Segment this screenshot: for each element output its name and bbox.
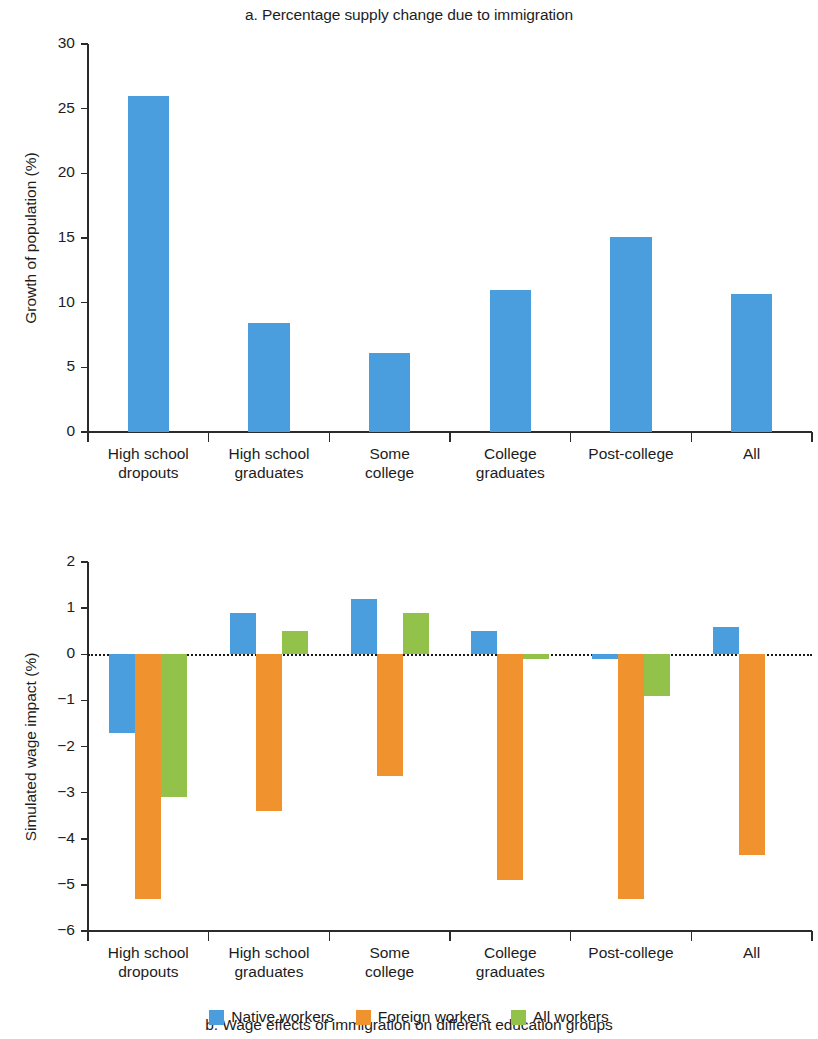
bar-1-3 xyxy=(497,654,523,880)
x-axis-group-tick xyxy=(87,931,89,941)
chart-panel-a: a. Percentage supply change due to immig… xyxy=(0,0,818,500)
x-axis-group-tick xyxy=(691,432,693,442)
x-axis-category-line: college xyxy=(329,463,450,482)
x-axis-group-tick xyxy=(449,432,451,442)
x-axis-category-label: Post-college xyxy=(571,444,692,463)
x-axis-group-tick xyxy=(329,931,331,941)
x-axis-category-label: High schooldropouts xyxy=(88,943,209,981)
y-axis-tick-label: 5 xyxy=(30,357,75,375)
x-axis-category-line: College xyxy=(450,444,571,463)
chart-legend: Native workersForeign workersAll workers xyxy=(0,1008,818,1026)
x-axis-category-line: graduates xyxy=(209,463,330,482)
x-axis-category-line: Some xyxy=(329,943,450,962)
y-axis-tick xyxy=(81,302,88,304)
bar-2-1 xyxy=(282,631,308,654)
y-axis-tick-label: −3 xyxy=(30,783,75,801)
legend-swatch-2 xyxy=(511,1010,526,1025)
legend-swatch-1 xyxy=(356,1010,371,1025)
x-axis-category-label: Somecollege xyxy=(329,943,450,981)
chart-a-title: a. Percentage supply change due to immig… xyxy=(0,6,818,24)
zero-reference-line xyxy=(88,654,812,656)
y-axis-tick xyxy=(81,838,88,840)
x-axis-group-tick xyxy=(87,432,89,442)
y-axis-tick-label: −4 xyxy=(30,829,75,847)
y-axis-tick-label: 15 xyxy=(30,228,75,246)
x-axis-category-line: graduates xyxy=(450,463,571,482)
legend-item-1: Foreign workers xyxy=(356,1008,489,1026)
y-axis-tick xyxy=(81,884,88,886)
y-axis-tick-label: −6 xyxy=(30,921,75,939)
x-axis-category-line: dropouts xyxy=(88,463,209,482)
bar-0-4 xyxy=(610,237,651,432)
x-axis-category-line: High school xyxy=(88,444,209,463)
bar-0-0 xyxy=(128,96,169,432)
y-axis-tick xyxy=(81,108,88,110)
x-axis-category-label: High schoolgraduates xyxy=(209,444,330,482)
legend-label: Native workers xyxy=(231,1008,334,1026)
bar-1-4 xyxy=(618,654,644,898)
bar-0-3 xyxy=(490,290,531,432)
x-axis-category-line: Post-college xyxy=(571,943,692,962)
x-axis-group-tick xyxy=(811,432,813,442)
x-axis-category-label: All xyxy=(691,943,812,962)
x-axis-category-label: Somecollege xyxy=(329,444,450,482)
y-axis-tick-label: 10 xyxy=(30,293,75,311)
x-axis-group-tick xyxy=(570,432,572,442)
bar-0-2 xyxy=(351,599,377,654)
chart-panel-b: b. Wage effects of immigration on differ… xyxy=(0,500,818,1039)
x-axis-category-line: High school xyxy=(88,943,209,962)
x-axis-group-tick xyxy=(449,931,451,941)
bar-0-5 xyxy=(713,627,739,655)
x-axis-group-tick xyxy=(329,432,331,442)
bar-0-4 xyxy=(592,654,618,659)
x-axis-group-tick xyxy=(691,931,693,941)
x-axis-group-tick xyxy=(208,432,210,442)
x-axis-category-line: dropouts xyxy=(88,962,209,981)
x-axis-category-line: graduates xyxy=(209,962,330,981)
x-axis-category-line: Some xyxy=(329,444,450,463)
x-axis-category-line: graduates xyxy=(450,962,571,981)
y-axis-tick xyxy=(81,746,88,748)
x-axis-category-line: All xyxy=(691,943,812,962)
y-axis-tick-label: 30 xyxy=(30,34,75,52)
bar-0-2 xyxy=(369,353,410,432)
y-axis-tick xyxy=(81,43,88,45)
bar-2-3 xyxy=(523,654,549,659)
x-axis-category-label: Collegegraduates xyxy=(450,444,571,482)
legend-label: All workers xyxy=(533,1008,609,1026)
y-axis-tick xyxy=(81,700,88,702)
y-axis-tick-label: −2 xyxy=(30,737,75,755)
x-axis-category-line: High school xyxy=(209,943,330,962)
legend-label: Foreign workers xyxy=(378,1008,489,1026)
x-axis-category-line: High school xyxy=(209,444,330,463)
y-axis-tick-label: 20 xyxy=(30,163,75,181)
y-axis-tick-label: 0 xyxy=(30,644,75,662)
bar-2-0 xyxy=(161,654,187,797)
x-axis-category-line: college xyxy=(329,962,450,981)
y-axis-tick-label: 2 xyxy=(30,552,75,570)
y-axis-tick xyxy=(81,367,88,369)
y-axis-tick xyxy=(81,607,88,609)
legend-item-2: All workers xyxy=(511,1008,609,1026)
bar-0-5 xyxy=(731,294,772,432)
y-axis-tick-label: 25 xyxy=(30,99,75,117)
x-axis-group-tick xyxy=(208,931,210,941)
bar-2-4 xyxy=(644,654,670,696)
x-axis-category-label: Collegegraduates xyxy=(450,943,571,981)
x-axis-category-line: College xyxy=(450,943,571,962)
x-axis-category-label: Post-college xyxy=(571,943,692,962)
bar-0-1 xyxy=(230,613,256,655)
x-axis-category-line: Post-college xyxy=(571,444,692,463)
bar-2-2 xyxy=(403,613,429,655)
y-axis-tick xyxy=(81,237,88,239)
legend-swatch-0 xyxy=(209,1010,224,1025)
y-axis-tick-label: 1 xyxy=(30,598,75,616)
x-axis-category-line: All xyxy=(691,444,812,463)
y-axis-tick-label: −1 xyxy=(30,690,75,708)
y-axis-tick-label: −5 xyxy=(30,875,75,893)
bar-1-5 xyxy=(739,654,765,855)
bar-0-0 xyxy=(109,654,135,732)
legend-item-0: Native workers xyxy=(209,1008,334,1026)
x-axis-group-tick xyxy=(570,931,572,941)
x-axis-category-label: All xyxy=(691,444,812,463)
